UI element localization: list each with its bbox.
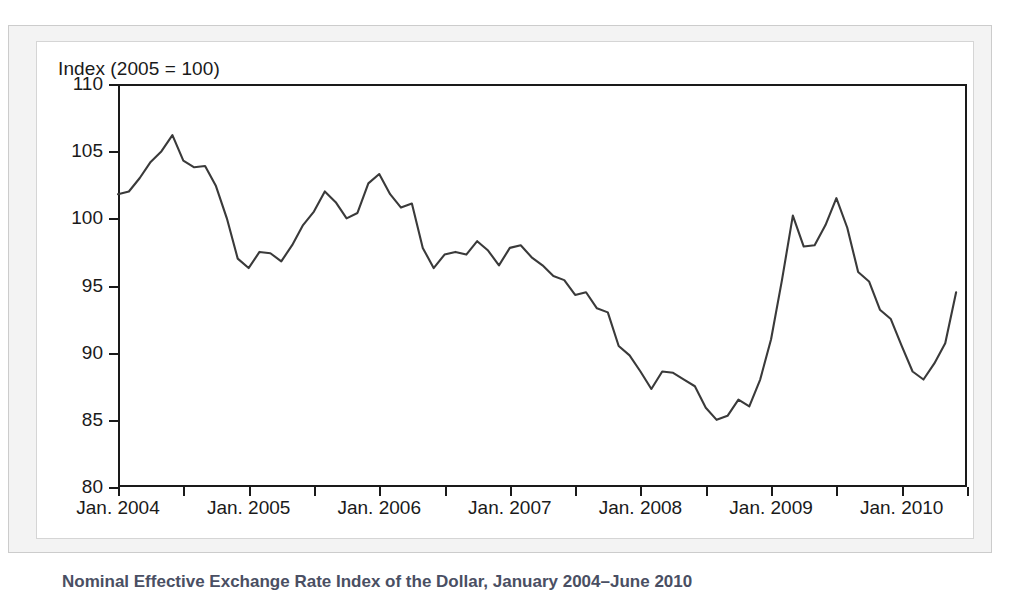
y-tick-label: 85	[82, 409, 103, 431]
x-tick-mark-minor	[314, 487, 316, 496]
y-tick-label: 80	[82, 476, 103, 498]
y-tick-mark	[109, 487, 118, 489]
chart-panel: Index (2005 = 100) 80859095100105110 Jan…	[36, 41, 974, 539]
x-tick-label: Jan. 2010	[860, 497, 943, 519]
x-tick-mark-major	[118, 487, 120, 496]
y-tick-mark	[109, 218, 118, 220]
x-tick-mark-minor	[445, 487, 447, 496]
y-tick-mark	[109, 353, 118, 355]
x-tick-mark-major	[902, 487, 904, 496]
y-tick-label: 90	[82, 342, 103, 364]
x-tick-label: Jan. 2007	[468, 497, 551, 519]
figure-outer-frame: Index (2005 = 100) 80859095100105110 Jan…	[8, 25, 992, 553]
y-tick-label: 110	[73, 73, 103, 95]
y-tick-label: 105	[71, 140, 103, 162]
x-tick-label: Jan. 2008	[599, 497, 682, 519]
x-tick-mark-minor	[967, 487, 969, 496]
y-tick-mark	[109, 84, 118, 86]
y-tick-mark	[109, 420, 118, 422]
y-tick-label: 100	[71, 207, 103, 229]
x-tick-label: Jan. 2004	[76, 497, 159, 519]
figure-caption: Nominal Effective Exchange Rate Index of…	[62, 572, 962, 591]
y-tick-label: 95	[82, 275, 103, 297]
x-tick-mark-major	[640, 487, 642, 496]
plot-area: 80859095100105110 Jan. 2004Jan. 2005Jan.…	[118, 84, 967, 487]
x-tick-mark-major	[510, 487, 512, 496]
x-tick-label: Jan. 2005	[207, 497, 290, 519]
x-tick-label: Jan. 2009	[729, 497, 812, 519]
series-path	[118, 135, 956, 420]
figure-root: Index (2005 = 100) 80859095100105110 Jan…	[0, 0, 1012, 591]
x-tick-mark-major	[771, 487, 773, 496]
x-tick-mark-major	[249, 487, 251, 496]
x-tick-mark-major	[379, 487, 381, 496]
y-tick-mark	[109, 286, 118, 288]
line-series	[118, 84, 967, 487]
x-tick-mark-minor	[706, 487, 708, 496]
y-tick-mark	[109, 151, 118, 153]
x-tick-mark-minor	[575, 487, 577, 496]
x-tick-mark-minor	[183, 487, 185, 496]
x-tick-mark-minor	[836, 487, 838, 496]
x-tick-label: Jan. 2006	[337, 497, 420, 519]
